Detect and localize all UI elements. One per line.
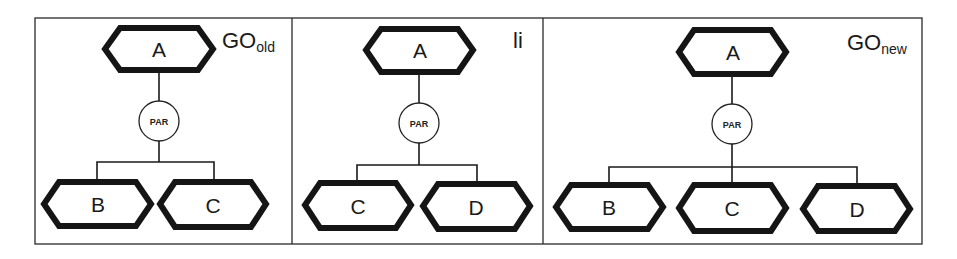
svg-text:A: A [152,38,166,61]
node-root: A [366,29,473,72]
svg-text:PAR: PAR [410,119,429,129]
svg-text:PAR: PAR [723,120,742,130]
node-child: B [44,182,151,226]
svg-text:C: C [205,194,220,217]
panel-go-new: GOnew A PAR B C D [556,30,910,231]
panel-go-old: GOold A PAR B C [44,28,275,227]
node-child: C [305,183,411,228]
node-child: C [160,182,266,227]
svg-text:PAR: PAR [150,117,169,127]
panel-title: GOnew [847,30,908,57]
node-child: D [803,186,910,231]
svg-text:C: C [724,197,739,220]
panel-title: GOold [222,28,275,55]
svg-text:A: A [726,41,740,64]
svg-text:A: A [413,39,427,62]
svg-text:D: D [849,198,864,221]
panel-title: li [513,28,523,53]
node-child: D [423,184,530,229]
par-operator: PAR [712,104,752,144]
node-root: A [679,30,786,74]
svg-text:D: D [468,196,483,219]
par-operator: PAR [399,103,439,143]
panel-li: li A PAR C D [305,28,530,229]
par-operator: PAR [139,101,179,141]
svg-text:C: C [350,195,365,218]
svg-text:B: B [602,196,616,219]
node-child: B [556,185,663,229]
node-child: C [679,185,786,231]
node-root: A [105,28,213,70]
diagram-canvas: GOold A PAR B C li A [0,0,957,259]
branch-connector [97,162,214,181]
svg-text:B: B [91,193,105,216]
